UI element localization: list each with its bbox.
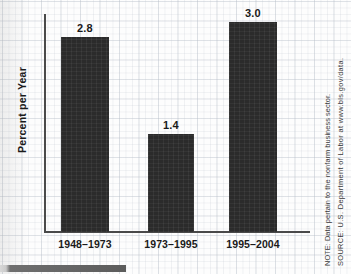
chart-screenshot: Percent per Year 2.8 1948–1973 1.4 1973–… xyxy=(0,0,351,274)
y-axis-title: Percent per Year xyxy=(16,50,28,170)
bar-1973-1995 xyxy=(148,134,194,232)
bar-value-1973-1995: 1.4 xyxy=(148,119,194,131)
bar-chart-plot-area: Percent per Year 2.8 1948–1973 1.4 1973–… xyxy=(0,0,351,274)
note-text: NOTE: Data pertain to the nonfarm busine… xyxy=(323,94,332,266)
bar-1948-1973 xyxy=(61,37,109,232)
source-text: SOURCE: U.S. Department of Labor at www.… xyxy=(336,58,345,266)
bar-value-1948-1973: 2.8 xyxy=(61,22,109,34)
bar-value-1995-2004: 3.0 xyxy=(229,7,277,19)
y-axis-line xyxy=(44,14,46,232)
bar-1995-2004 xyxy=(229,22,277,232)
scan-artifact-strip xyxy=(0,265,126,272)
x-tick-label-1948-1973: 1948–1973 xyxy=(36,238,134,250)
x-tick-label-1995-2004: 1995–2004 xyxy=(204,238,302,250)
